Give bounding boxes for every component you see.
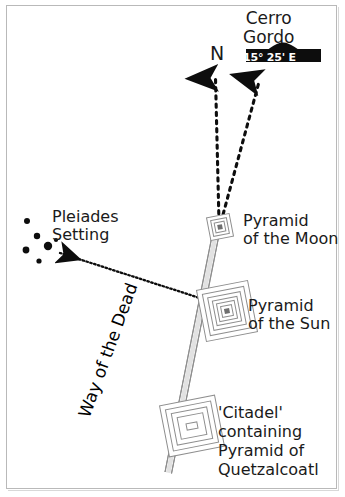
cerro-gordo-label: CerroGordo bbox=[243, 9, 294, 47]
pyramid-of-the-sun-label: Pyramidof the Sun bbox=[248, 297, 330, 334]
pleiades-setting-label: PleiadesSetting bbox=[52, 208, 119, 245]
sun-label-line2: of the Sun bbox=[248, 314, 330, 333]
pyramid-of-the-moon-icon bbox=[207, 214, 234, 241]
moon-label-line2: of the Moon bbox=[243, 229, 338, 248]
pleiades-label-line1: Pleiades bbox=[52, 207, 119, 226]
citadel-icon bbox=[160, 395, 225, 457]
bearing-label: 15° 25' E bbox=[243, 52, 296, 64]
cerro-gordo-label-line1: Cerro bbox=[246, 8, 292, 28]
citadel-label-line1: 'Citadel' bbox=[218, 403, 283, 422]
alignment-true-north bbox=[216, 78, 220, 222]
teotihuacan-alignment-diagram: CerroGordo 15° 25' E N PleiadesSetting P… bbox=[0, 0, 345, 497]
citadel-label: 'Citadel'containingPyramid ofQuetzalcoat… bbox=[218, 404, 319, 480]
citadel-label-line3: Pyramid of bbox=[218, 441, 304, 460]
pyramid-of-the-moon-label: Pyramidof the Moon bbox=[243, 212, 338, 249]
cerro-gordo-label-line2: Gordo bbox=[243, 27, 294, 47]
citadel-label-line4: Quetzalcoatl bbox=[218, 460, 319, 479]
sun-label-line1: Pyramid bbox=[248, 296, 314, 315]
north-label: N bbox=[210, 43, 224, 64]
moon-label-line1: Pyramid bbox=[243, 211, 309, 230]
pleiades-label-line2: Setting bbox=[52, 225, 109, 244]
alignment-cerro-gordo bbox=[221, 82, 259, 222]
citadel-label-line2: containing bbox=[218, 422, 302, 441]
